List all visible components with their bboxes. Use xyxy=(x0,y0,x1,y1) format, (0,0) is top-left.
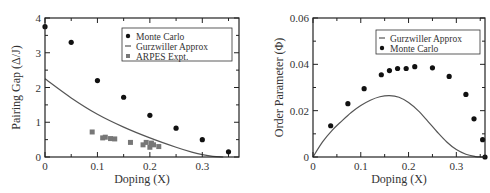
monte-carlo-point xyxy=(173,126,178,131)
order-parameter-legend: Gurzwiller ApproxMonte Carlo xyxy=(376,30,480,54)
monte-carlo-point xyxy=(69,40,74,45)
order-parameter-marks xyxy=(313,64,488,160)
y-tick-label: 0 xyxy=(36,151,42,163)
y-tick-label: 2 xyxy=(36,82,42,94)
monte-carlo-point xyxy=(121,95,126,100)
monte-carlo-point xyxy=(387,68,392,73)
gurzwiller-approx-legend-label: Gurzwiller Approx xyxy=(390,34,462,44)
monte-carlo-point xyxy=(147,113,152,118)
monte-carlo-point xyxy=(412,64,417,69)
x-tick-label: 0.2 xyxy=(143,160,157,172)
arpes-expt-point xyxy=(112,136,117,141)
arpes-expt-point xyxy=(144,140,149,145)
monte-carlo-legend-swatch xyxy=(380,46,384,50)
monte-carlo-point xyxy=(200,137,205,142)
pairing-gap-legend: Monte CarloGurzwiller ApproxARPES Expt. xyxy=(122,28,232,62)
pairing-gap-y-axis-label: Pairing Gap (Δ/J) xyxy=(9,45,23,129)
gurzwiller-approx-line xyxy=(45,79,223,157)
monte-carlo-point xyxy=(226,149,231,154)
monte-carlo-point xyxy=(463,92,468,97)
x-tick-label: 0 xyxy=(42,160,48,172)
pairing-gap-chart: 00.10.20.301234 Doping (X) Pairing Gap (… xyxy=(9,12,239,186)
order-parameter-y-axis-label: Order Parameter (Φ) xyxy=(272,38,286,137)
y-tick-label: 1 xyxy=(36,116,42,128)
arpes-expt-legend-swatch xyxy=(126,54,130,58)
order-parameter-x-axis-label: Doping (X) xyxy=(371,172,427,186)
monte-carlo-point xyxy=(328,123,333,128)
pairing-gap-x-axis-label: Doping (X) xyxy=(114,172,170,186)
x-tick-label: 0.2 xyxy=(402,160,416,172)
x-tick-label: 0.1 xyxy=(91,160,105,172)
monte-carlo-legend-label: Monte Carlo xyxy=(390,44,439,54)
monte-carlo-point xyxy=(395,66,400,71)
y-tick-label: 0.04 xyxy=(290,58,310,70)
figure-canvas: 00.10.20.301234 Doping (X) Pairing Gap (… xyxy=(0,0,490,193)
x-tick-label: 0.3 xyxy=(449,160,463,172)
y-tick-label: 0.06 xyxy=(290,12,310,24)
gurzwiller-approx-line xyxy=(313,96,480,157)
arpes-expt-point xyxy=(103,135,108,140)
y-tick-label: 4 xyxy=(36,12,42,24)
monte-carlo-point xyxy=(471,116,476,121)
monte-carlo-legend-swatch xyxy=(126,34,130,38)
y-tick-label: 0 xyxy=(304,151,310,163)
monte-carlo-legend-label: Monte Carlo xyxy=(136,32,185,42)
monte-carlo-point xyxy=(447,74,452,79)
monte-carlo-point xyxy=(95,78,100,83)
monte-carlo-point xyxy=(404,66,409,71)
arpes-expt-legend-label: ARPES Expt. xyxy=(136,52,188,62)
x-tick-label: 0.3 xyxy=(195,160,209,172)
x-tick-label: 0.1 xyxy=(354,160,368,172)
arpes-expt-point xyxy=(90,129,95,134)
monte-carlo-point xyxy=(362,86,367,91)
x-tick-label: 0 xyxy=(310,160,316,172)
monte-carlo-point xyxy=(345,101,350,106)
arpes-expt-point xyxy=(156,144,161,149)
arpes-expt-point xyxy=(128,140,133,145)
y-tick-label: 0.02 xyxy=(290,105,309,117)
gurzwiller-approx-legend-label: Gurzwiller Approx xyxy=(136,42,208,52)
y-tick-label: 3 xyxy=(36,47,42,59)
arpes-expt-point xyxy=(151,142,156,147)
monte-carlo-point xyxy=(430,65,435,70)
monte-carlo-point xyxy=(379,72,384,77)
order-parameter-chart: 00.10.20.300.020.040.06 Doping (X) Order… xyxy=(272,12,488,186)
